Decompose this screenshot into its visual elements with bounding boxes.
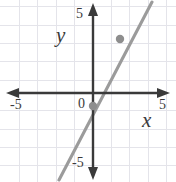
grid-lines: [0, 0, 176, 182]
y-axis-max-tick-label: 5: [76, 7, 83, 21]
origin-label: 0: [78, 97, 85, 111]
point-on-line: [116, 35, 124, 43]
x-axis-min-tick-label: -5: [10, 98, 22, 112]
y-axis-up-arrow: [88, 3, 98, 16]
plotted-line: [59, 2, 152, 180]
axis-arrowheads: [6, 3, 170, 180]
x-axis-max-tick-label: 5: [159, 98, 166, 112]
y-axis-label: y: [56, 25, 65, 46]
y-axis-down-arrow: [88, 167, 98, 180]
point-y-intercept: [89, 102, 97, 110]
y-axis-min-tick-label: -5: [72, 156, 84, 170]
x-axis-label: x: [142, 110, 151, 131]
graph-figure: y x -5 5 5 -5 0: [0, 0, 176, 182]
coordinate-plane: [0, 0, 176, 182]
axes: [14, 10, 162, 174]
